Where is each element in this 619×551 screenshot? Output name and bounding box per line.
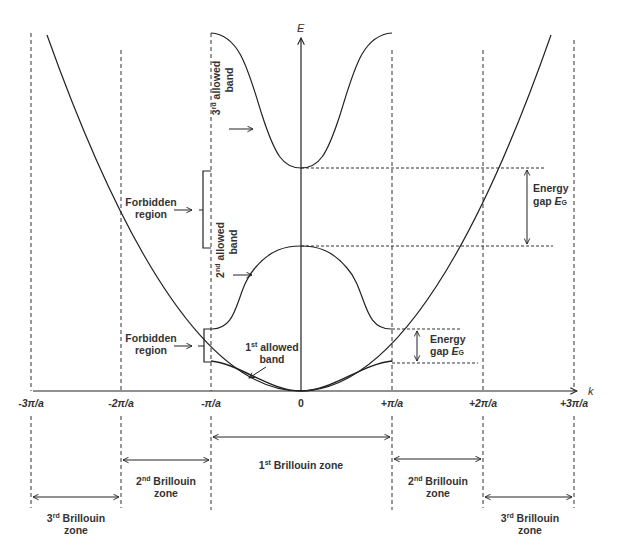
svg-text:3rd Brillouin: 3rd Brillouin xyxy=(501,512,559,524)
first-band-label: 1st allowed band xyxy=(245,341,299,365)
svg-text:zone: zone xyxy=(426,487,450,499)
tick-label: +2π/a xyxy=(469,397,497,409)
bz3-left-label: 3rd Brillouin zone xyxy=(47,512,105,536)
first-band-arrow xyxy=(249,367,266,378)
svg-text:zone: zone xyxy=(64,524,88,536)
svg-text:zone: zone xyxy=(518,524,542,536)
svg-text:Forbidden: Forbidden xyxy=(125,196,176,208)
energy-gap-label-upper: Energy gap EG xyxy=(533,182,569,207)
k-tick-labels: -3π/a -2π/a -π/a 0 +π/a +2π/a +3π/a xyxy=(18,397,588,409)
svg-text:zone: zone xyxy=(154,487,178,499)
svg-text:2nd Brillouin: 2nd Brillouin xyxy=(136,475,196,487)
svg-text:region: region xyxy=(135,208,167,220)
second-band-label: 2nd allowed band xyxy=(214,222,239,278)
tick-label: -π/a xyxy=(201,397,221,409)
free-electron-parabola xyxy=(47,35,551,391)
svg-text:gap EG: gap EG xyxy=(533,195,568,207)
svg-text:Energy: Energy xyxy=(430,333,466,345)
forbidden-bracket-upper xyxy=(199,171,211,248)
svg-text:Energy: Energy xyxy=(533,182,569,194)
svg-text:3rd allowed: 3rd allowed xyxy=(210,61,222,115)
svg-text:region: region xyxy=(135,344,167,356)
bz2-left-label: 2nd Brillouin zone xyxy=(136,475,196,499)
svg-text:Forbidden: Forbidden xyxy=(125,332,176,344)
svg-text:1st Brillouin zone: 1st Brillouin zone xyxy=(259,459,344,471)
svg-text:2nd allowed: 2nd allowed xyxy=(214,222,226,278)
forbidden-region-label-upper: Forbidden region xyxy=(125,196,176,220)
svg-text:1st allowed: 1st allowed xyxy=(245,341,299,353)
svg-text:band: band xyxy=(227,229,239,254)
e-axis-label: E xyxy=(297,22,305,34)
k-axis-label: k xyxy=(588,385,594,397)
tick-label: +π/a xyxy=(381,397,404,409)
gap-lines xyxy=(301,168,553,363)
svg-text:band: band xyxy=(259,353,284,365)
svg-text:2nd Brillouin: 2nd Brillouin xyxy=(408,475,468,487)
tick-label: +3π/a xyxy=(560,397,588,409)
band-diagram: E k -3π/a -2π/a -π/a 0 +π/a +2π/a +3π/a … xyxy=(0,0,619,551)
bz2-right-label: 2nd Brillouin zone xyxy=(408,475,468,499)
svg-text:3rd Brillouin: 3rd Brillouin xyxy=(47,512,105,524)
bz1-label: 1st Brillouin zone xyxy=(259,459,344,471)
zone-boundaries-upper xyxy=(31,33,574,391)
bz3-right-label: 3rd Brillouin zone xyxy=(501,512,559,536)
third-band-label: 3rd allowed band xyxy=(210,61,235,115)
tick-label: -3π/a xyxy=(18,397,44,409)
svg-text:band: band xyxy=(223,67,235,92)
tick-label: 0 xyxy=(298,397,304,409)
tick-label: -2π/a xyxy=(108,397,134,409)
forbidden-region-label-lower: Forbidden region xyxy=(125,332,176,356)
svg-text:gap EG: gap EG xyxy=(430,345,465,357)
energy-gap-label-lower: Energy gap EG xyxy=(430,333,466,357)
